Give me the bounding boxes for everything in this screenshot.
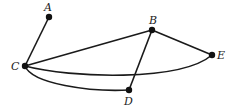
labels: A B C D E xyxy=(11,1,225,108)
label-b: B xyxy=(148,14,157,27)
edge-b-d xyxy=(129,30,152,90)
edge-c-b xyxy=(25,30,152,66)
label-c: C xyxy=(11,60,20,73)
node-c xyxy=(22,63,28,69)
node-a xyxy=(46,14,52,20)
label-e: E xyxy=(216,49,225,62)
label-d: D xyxy=(123,95,133,108)
node-d xyxy=(126,87,132,93)
node-e xyxy=(209,52,215,58)
label-a: A xyxy=(43,1,52,14)
edge-b-e xyxy=(152,30,212,55)
edges xyxy=(25,17,212,90)
graph-diagram: A B C D E xyxy=(0,0,233,112)
nodes xyxy=(22,14,215,93)
node-b xyxy=(149,27,155,33)
edge-a-c xyxy=(25,17,49,66)
